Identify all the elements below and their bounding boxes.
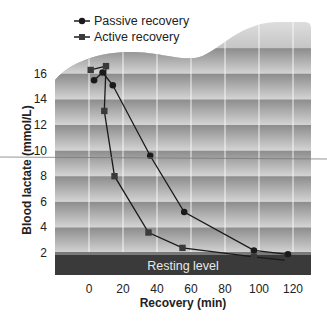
data-point [103,63,109,69]
data-point [88,67,94,73]
data-point [145,229,151,235]
data-point [251,254,257,260]
y-tick-label: 12 [34,118,48,132]
y-axis-ticks: 246810121416 [34,67,48,260]
y-tick-label: 2 [40,246,47,260]
x-tick-label: 40 [150,282,164,296]
y-tick-label: 4 [40,220,47,234]
x-tick-label: 0 [86,282,93,296]
x-tick-label: 80 [218,282,232,296]
y-axis-title: Blood lactate (mmol/L) [20,105,34,234]
y-tick-label: 16 [34,67,48,81]
x-axis-ticks: 020406080100120 [86,282,304,296]
data-point [285,257,291,263]
y-tick-label: 8 [40,169,47,183]
y-tick-label: 14 [34,92,48,106]
data-point [251,247,258,254]
data-point [110,82,117,89]
data-point [111,173,117,179]
resting-level-label: Resting level [147,259,219,273]
data-point [91,77,98,84]
resting-band: Resting level [55,252,311,275]
lactate-recovery-chart: Resting level 246810121416 0204060801001… [0,0,327,327]
legend: Passive recovery Active recovery [74,14,190,44]
svg-text:Active recovery: Active recovery [94,30,180,44]
square-marker-icon [79,34,85,40]
circle-marker-icon [79,18,85,24]
legend-item-passive: Passive recovery [74,14,190,28]
data-point [179,245,185,251]
x-tick-label: 60 [184,282,198,296]
legend-item-active: Active recovery [74,30,180,44]
x-tick-label: 120 [283,282,303,296]
svg-text:Passive recovery: Passive recovery [94,14,190,28]
x-tick-label: 20 [116,282,130,296]
data-point [99,69,106,76]
x-tick-label: 100 [249,282,269,296]
data-point [101,108,107,114]
data-point [285,251,292,258]
y-tick-label: 6 [40,195,47,209]
x-axis-title: Recovery (min) [140,296,227,310]
y-tick-label: 10 [34,144,48,158]
data-point [181,209,188,216]
